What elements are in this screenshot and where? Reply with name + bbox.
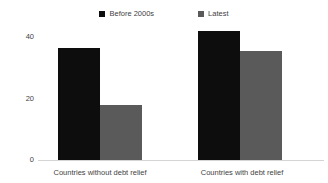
bar-before-2000s-countries-with-debt-relief [198,31,240,160]
bar-chart: Before 2000s Latest 40 20 0 Countries wi… [0,0,328,183]
x-axis-baseline [38,160,324,161]
y-axis-tick-20: 20 [12,95,34,103]
bar-before-2000s-countries-without-debt-relief [58,48,100,160]
x-axis-category-label-1: Countries without debt relief [20,168,180,177]
plot-area: 40 20 0 Countries without debt relief Co… [0,0,328,183]
x-axis-category-label-2: Countries with debt relief [162,168,322,177]
bar-latest-countries-without-debt-relief [100,105,142,160]
bar-latest-countries-with-debt-relief [240,51,282,160]
y-axis-tick-40: 40 [12,33,34,41]
y-axis-tick-0: 0 [12,156,34,164]
